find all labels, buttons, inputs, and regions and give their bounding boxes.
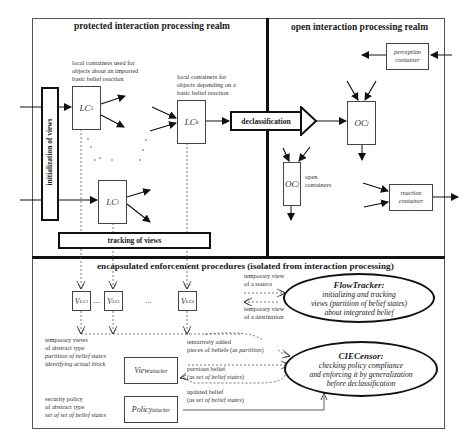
view-lci-box: VLCi: [104, 291, 123, 311]
ocj-lower-container: OCj: [283, 162, 301, 206]
view-attacker-box: Viewattacker: [124, 357, 178, 384]
lc1-note: local containers used forobjects about a…: [72, 59, 138, 83]
ocj-upper-container: OCj: [347, 101, 376, 145]
previous-belief-note: previous belief (as set of belief states…: [187, 365, 244, 381]
reaction-container: reactioncontainer: [389, 184, 433, 211]
security-policy-note: security policy of abstract type set of …: [45, 395, 106, 419]
enforcement-realm-title: encapsulated enforcement procedures (iso…: [97, 261, 394, 271]
protected-realm-title: protected interaction processing realm: [74, 21, 230, 31]
open-containers-note: opencontainers: [305, 173, 331, 189]
updated-belief-note: updated belief (as set of belief states): [187, 388, 244, 404]
view-ellipsis-2: ...: [145, 295, 152, 305]
tracking-of-views-label: tracking of views: [108, 236, 162, 245]
flowtracker-ellipse: FlowTracker: initializing and tracking v…: [283, 273, 435, 323]
source-note: temporary viewof a source: [244, 272, 284, 288]
view-lck-box: VLCk: [178, 291, 197, 311]
destination-note: temporary viewof a destination: [244, 305, 284, 321]
declassification-arrowhead-icon: [300, 106, 318, 136]
declassification-arrow: declassification: [230, 111, 302, 131]
open-realm-title: open interaction processing realm: [291, 22, 428, 32]
initialization-of-views-label: initialization of views: [45, 102, 55, 202]
lc1-container: LC1: [72, 86, 101, 130]
lck-container: LCk: [177, 100, 206, 144]
ciecensor-ellipse: CIECensor: checking policy compliance an…: [284, 341, 438, 397]
tentative-note: tentatively added pieces of beliefs (as …: [187, 338, 264, 354]
temporary-views-note: temporary views of abstract type partiti…: [45, 336, 106, 368]
view-lc1-box: VLC1: [72, 291, 91, 311]
realm-horizontal-divider: [32, 256, 445, 259]
realm-vertical-divider: [266, 18, 269, 258]
view-ellipsis-1: ...: [93, 295, 100, 305]
lci-container: LCi: [98, 180, 127, 224]
perception-container: perceptioncontainer: [386, 43, 429, 70]
declassification-label: declassification: [241, 117, 290, 126]
lck-note: local containers forobjects depending on…: [177, 73, 236, 97]
policy-attacker-box: Policyattacker: [124, 396, 178, 423]
tracking-of-views-bar: tracking of views: [58, 232, 211, 249]
